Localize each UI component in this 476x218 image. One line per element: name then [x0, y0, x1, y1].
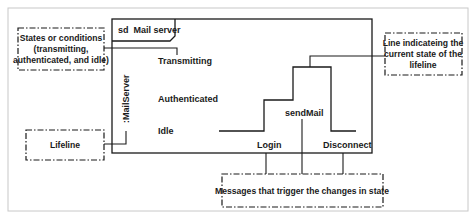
messages-note-text: Messages that trigger the changes in sta…: [215, 186, 389, 196]
timing-diagram: sd Mail server :MailServer Transmitting …: [0, 0, 476, 218]
states-note-line-2: (transmitting,: [34, 44, 89, 54]
state-label-authenticated: Authenticated: [158, 94, 218, 104]
state-label-transmitting: Transmitting: [158, 56, 212, 66]
current-state-note-line-1: Line indicateing the: [383, 38, 464, 48]
message-login: Login: [257, 140, 282, 150]
state-label-idle: Idle: [158, 126, 174, 136]
states-note-line-1: States or conditions: [20, 33, 103, 43]
message-disconnect: Disconnect: [323, 140, 372, 150]
lifeline-note-text: Lifeline: [50, 140, 80, 150]
message-sendmail: sendMail: [285, 108, 324, 118]
current-state-note-line-3: lifeline: [409, 60, 436, 70]
frame-label: sd Mail server: [118, 25, 181, 35]
current-state-note-line-2: current state of the: [384, 49, 462, 59]
lifeline-label: :MailServer: [121, 74, 131, 123]
states-note-line-3: authenticated, and idle): [13, 55, 109, 65]
